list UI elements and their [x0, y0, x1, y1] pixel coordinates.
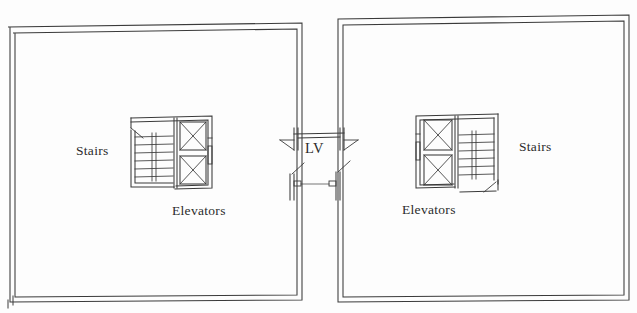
right-core-divider: [455, 116, 458, 188]
right-elevator-cab-2: [424, 155, 452, 185]
label-stairs-left: Stairs: [76, 143, 109, 159]
right-stair-door: [460, 180, 498, 192]
left-stair-stringer: [152, 133, 156, 181]
left-stair-door: [131, 118, 143, 138]
central-link-lv: [280, 128, 358, 200]
right-stair-stringer: [472, 131, 476, 179]
label-elevators-right: Elevators: [402, 202, 456, 218]
link-lower-door-swings: [292, 161, 350, 174]
left-elevator-lobby-door: [208, 138, 212, 164]
label-lv-link: LV: [305, 140, 324, 157]
right-elevator-cab-1: [424, 120, 452, 150]
label-stairs-right: Stairs: [519, 139, 552, 155]
left-building-outline: [8, 23, 302, 308]
left-stair-treads: [135, 136, 173, 177]
label-elevators-left: Elevators: [172, 203, 226, 219]
left-service-core: [131, 116, 212, 189]
left-elevator-cab-2: [180, 156, 206, 184]
left-core-divider: [174, 118, 177, 188]
link-lower-threshold: [294, 181, 336, 186]
right-service-core: [416, 114, 498, 192]
right-stair-treads: [459, 134, 494, 175]
floor-plan-canvas: Stairs Elevators LV Elevators Stairs: [0, 0, 637, 313]
left-elevator-cab-1: [180, 122, 206, 150]
right-elevator-lobby-door: [416, 134, 420, 160]
